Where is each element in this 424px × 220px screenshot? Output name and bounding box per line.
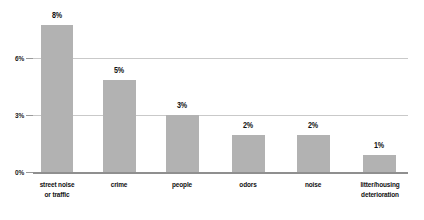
category-label-noise: noise	[288, 180, 339, 190]
bar-people	[166, 115, 199, 172]
bar-noise	[297, 135, 330, 172]
category-label-line-1: street noise	[27, 180, 87, 190]
bar-value-people: 3%	[165, 100, 199, 110]
category-label-line-1: litter/housing	[349, 180, 410, 190]
category-label-street-noise-or-traffic: street noise or traffic	[27, 180, 87, 199]
bar-value-street-noise-or-traffic: 8%	[40, 10, 74, 20]
plot-area: 6% 3% 0% 8% street noise or traffic 5% c…	[0, 0, 424, 220]
bar-crime	[103, 80, 136, 172]
ytick-mark-3pct	[26, 115, 33, 116]
gridline-6pct	[33, 58, 408, 59]
category-label-litter-housing-deterioration: litter/housing deterioration	[349, 180, 410, 199]
ytick-mark-0pct	[26, 172, 33, 173]
ytick-label-0pct: 0%	[9, 168, 24, 177]
axis-baseline	[33, 172, 408, 174]
bar-litter-housing-deterioration	[363, 155, 396, 172]
bar-value-odors: 2%	[231, 120, 265, 130]
category-label-line-1: crime	[94, 180, 145, 190]
category-label-people: people	[157, 180, 208, 190]
category-label-line-2: deterioration	[349, 190, 410, 200]
category-label-line-2: or traffic	[27, 190, 87, 200]
category-label-odors: odors	[223, 180, 274, 190]
bar-value-crime: 5%	[102, 65, 136, 75]
category-label-line-1: noise	[288, 180, 339, 190]
ytick-label-6pct: 6%	[9, 54, 24, 63]
bar-chart: 6% 3% 0% 8% street noise or traffic 5% c…	[0, 0, 424, 220]
gridline-3pct	[33, 115, 408, 116]
bar-odors	[232, 135, 265, 172]
bar-street-noise-or-traffic	[41, 25, 73, 172]
category-label-line-1: odors	[223, 180, 274, 190]
category-label-crime: crime	[94, 180, 145, 190]
ytick-label-3pct: 3%	[9, 111, 24, 120]
category-label-line-1: people	[157, 180, 208, 190]
bar-value-litter-housing-deterioration: 1%	[362, 140, 396, 150]
ytick-mark-6pct	[26, 58, 33, 59]
bar-value-noise: 2%	[296, 120, 330, 130]
